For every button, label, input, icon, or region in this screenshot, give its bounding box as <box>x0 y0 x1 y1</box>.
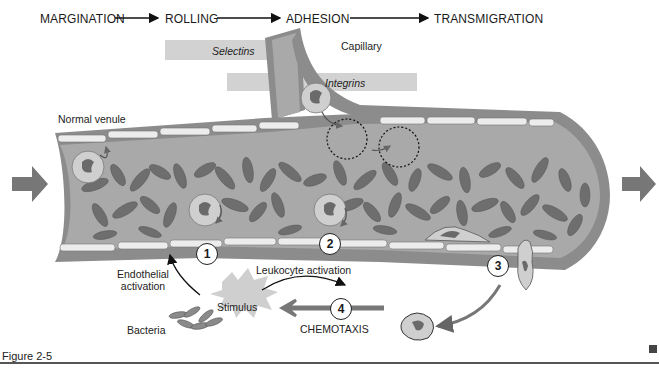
flow-out-arrow <box>622 166 656 202</box>
caption-rule <box>0 362 659 364</box>
stimulus-label: Stimulus <box>217 301 257 313</box>
endothelial-activation-label: Endothelial activation <box>117 268 169 292</box>
flow-in-arrow <box>12 166 48 202</box>
diagram-art <box>0 0 659 368</box>
end-of-figure-mark <box>649 345 657 353</box>
figure-root: MARGINATION ROLLING ADHESION TRANSMIGRAT… <box>0 0 659 368</box>
capillary-label: Capillary <box>341 40 382 52</box>
step-1-marker: 1 <box>196 243 218 265</box>
figure-caption: Figure 2-5 <box>2 350 52 362</box>
endothelial-activation-line1: Endothelial <box>117 268 169 280</box>
normal-venule-label: Normal venule <box>58 113 126 125</box>
bacteria-cluster <box>169 305 224 331</box>
endothelial-activation-line2: activation <box>117 280 169 292</box>
leukocyte-activation-label: Leukocyte activation <box>256 264 351 276</box>
step-4-marker: 4 <box>330 298 352 320</box>
bacteria-label: Bacteria <box>127 324 166 336</box>
selectins-label: Selectins <box>212 45 255 57</box>
step-3-marker: 3 <box>487 255 509 277</box>
chemotaxis-label: CHEMOTAXIS <box>300 323 369 335</box>
integrins-label: Integrins <box>325 77 365 89</box>
step-2-marker: 2 <box>319 233 341 255</box>
